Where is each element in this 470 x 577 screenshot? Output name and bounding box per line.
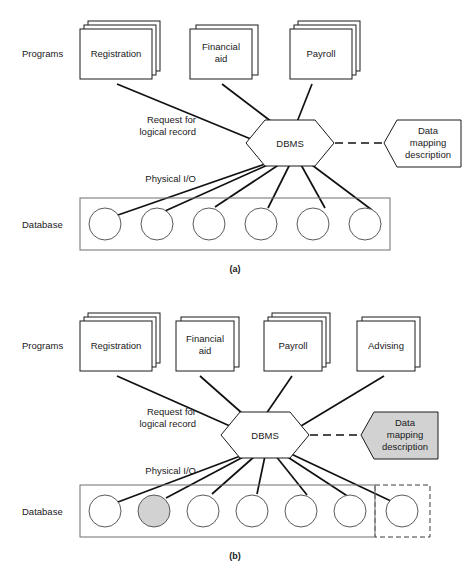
data-mapping-line2: mapping: [387, 429, 423, 440]
program-box-registration-a[interactable]: Registration: [80, 21, 160, 79]
dbms-label-a: DBMS: [276, 138, 303, 149]
data-mapping-line1: Data: [395, 417, 416, 428]
database-record[interactable]: [89, 495, 121, 527]
dbms-hexagon-a[interactable]: DBMS: [246, 120, 334, 166]
link-dbms-to-record-1: [118, 455, 243, 502]
data-mapping-box-a[interactable]: Data mapping description: [384, 120, 461, 167]
database-container-a: [80, 198, 390, 250]
link-dbms-to-record-6: [308, 162, 372, 210]
program-box-financial-aid-b[interactable]: Financial aid: [176, 317, 239, 371]
side-label-programs-b: Programs: [22, 340, 63, 351]
database-record[interactable]: [297, 208, 329, 240]
edge-label-physical-io-a: Physical I/O: [145, 173, 196, 184]
edge-label-request-a-line2: logical record: [140, 126, 197, 137]
database-record[interactable]: [285, 495, 317, 527]
program-label-registration-a: Registration: [91, 48, 142, 59]
panel-caption-a: (a): [230, 264, 241, 274]
figure-root: Registration Financial aid Payroll DBMS …: [0, 0, 470, 577]
edge-label-request-b-line2: logical record: [140, 418, 197, 429]
data-mapping-line3: description: [382, 441, 428, 452]
edge-label-physical-io-b: Physical I/O: [145, 465, 196, 476]
database-record[interactable]: [89, 208, 121, 240]
dbms-hexagon-b[interactable]: DBMS: [221, 412, 309, 458]
dbms-label-b: DBMS: [251, 430, 278, 441]
edge-label-request-b: Request for: [147, 406, 196, 417]
database-box-a: [80, 198, 390, 250]
data-mapping-box-b[interactable]: Data mapping description: [361, 412, 438, 459]
database-record[interactable]: [245, 208, 277, 240]
program-box-payroll-a[interactable]: Payroll: [290, 21, 360, 79]
database-record-new[interactable]: [386, 495, 418, 527]
database-record[interactable]: [236, 495, 268, 527]
link-dbms-to-record-7: [289, 453, 393, 502]
side-label-database-a: Database: [22, 219, 63, 230]
link-dbms-to-record-5: [300, 163, 325, 208]
link-dbms-to-record-6: [283, 454, 352, 499]
link-dbms-to-record-4: [257, 456, 265, 494]
program-box-advising-b[interactable]: Advising: [357, 317, 420, 371]
program-box-payroll-b[interactable]: Payroll: [264, 313, 330, 371]
database-record[interactable]: [193, 208, 225, 240]
edge-label-request-a: Request for: [147, 114, 196, 125]
side-label-database-b: Database: [22, 506, 63, 517]
program-label-financial-b: Financial: [186, 333, 224, 344]
database-record[interactable]: [187, 495, 219, 527]
program-label-payroll-b: Payroll: [278, 340, 307, 351]
database-container-b: [80, 485, 430, 537]
link-dbms-to-record-5: [275, 455, 307, 495]
database-record[interactable]: [334, 495, 366, 527]
panel-caption-b: (b): [229, 551, 241, 561]
program-label-financial-a: Financial: [202, 41, 240, 52]
database-record[interactable]: [141, 208, 173, 240]
program-box-financial-aid-a[interactable]: Financial aid: [190, 25, 258, 79]
data-mapping-line1: Data: [418, 125, 439, 136]
panel-a: Registration Financial aid Payroll DBMS …: [0, 0, 470, 290]
side-label-programs-a: Programs: [22, 48, 63, 59]
panel-a-io-links: [118, 162, 372, 215]
database-record-shaded[interactable]: [138, 495, 170, 527]
link-payroll-to-dbms: [297, 84, 312, 122]
program-label-financial-b-line2: aid: [199, 345, 212, 356]
program-box-registration-b[interactable]: Registration: [80, 313, 160, 371]
link-financial-aid-to-dbms: [222, 84, 272, 122]
link-payroll-to-dbms: [266, 376, 292, 414]
database-record[interactable]: [349, 208, 381, 240]
program-label-registration-b: Registration: [91, 340, 142, 351]
panel-b: Registration Financial aid Payroll Advis…: [0, 287, 470, 577]
program-label-payroll-a: Payroll: [306, 48, 335, 59]
data-mapping-line2: mapping: [410, 137, 446, 148]
link-dbms-to-record-2: [166, 455, 247, 498]
program-label-financial-a-line2: aid: [215, 53, 228, 64]
link-dbms-to-record-1: [118, 163, 268, 215]
data-mapping-line3: description: [405, 149, 451, 160]
link-financial-aid-to-dbms: [200, 376, 243, 414]
program-label-advising-b: Advising: [368, 340, 404, 351]
database-box-b: [80, 485, 375, 537]
